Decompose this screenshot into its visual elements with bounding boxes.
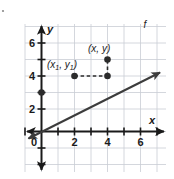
print-speck-artifact <box>2 10 4 12</box>
point-y-intercept <box>38 89 45 96</box>
point-corner <box>104 73 111 80</box>
y-tick-label-2: 2 <box>29 103 35 115</box>
point-x1-y1 <box>71 73 78 80</box>
y-tick-label-6: 6 <box>29 37 35 49</box>
x-tick-label-2: 2 <box>71 136 77 148</box>
y-axis-label: y <box>46 23 54 35</box>
p2-close-paren: ) <box>106 43 110 54</box>
svg-text:(x, y): (x, y) <box>88 43 110 54</box>
point-label-x-y: (x, y) <box>88 43 110 54</box>
graph-canvas: 0 2 4 6 2 4 6 x y f (x1, y1) (x, y) <box>0 0 174 179</box>
coordinate-plane-figure: 0 2 4 6 2 4 6 x y f (x1, y1) (x, y) <box>0 0 174 179</box>
y-tick-label-4: 4 <box>29 70 36 82</box>
x-axis-label: x <box>148 114 156 126</box>
point-x-y <box>104 56 111 63</box>
origin-label: 0 <box>31 136 37 148</box>
x-tick-label-4: 4 <box>104 136 111 148</box>
x-tick-label-6: 6 <box>137 136 143 148</box>
p1-close-paren: ) <box>73 59 77 70</box>
